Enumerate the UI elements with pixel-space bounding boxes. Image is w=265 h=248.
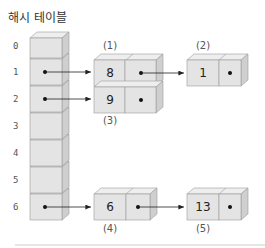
node-value-3: 9	[106, 93, 114, 107]
node-label-2: (2)	[196, 40, 210, 51]
index-label-3: 3	[13, 121, 18, 131]
index-label-5: 5	[13, 175, 18, 185]
hash-table-column	[30, 32, 69, 220]
index-label-1: 1	[13, 67, 18, 77]
node-value-1: 8	[106, 66, 114, 80]
node-label-4: (4)	[103, 223, 117, 234]
node-value-2: 1	[199, 66, 207, 80]
node-3	[94, 81, 163, 113]
node-value-4: 6	[106, 200, 114, 214]
index-label-4: 4	[13, 148, 18, 158]
node-value-5: 13	[195, 200, 210, 214]
node-label-3: (3)	[103, 115, 117, 126]
index-label-0: 0	[13, 41, 18, 51]
bucket-0	[30, 32, 69, 58]
node-4	[94, 188, 157, 220]
node-2	[187, 54, 248, 86]
node-label-5: (5)	[196, 223, 210, 234]
pointer-dot-node-3	[139, 98, 143, 102]
index-label-6: 6	[13, 202, 18, 212]
hash-table-diagram: 0 1 2 3 4 5 6 8	[0, 0, 265, 248]
pointer-dot-node-5	[228, 205, 232, 209]
node-label-1: (1)	[103, 40, 117, 51]
pointer-dot-node-2	[228, 71, 232, 75]
index-label-2: 2	[13, 94, 18, 104]
